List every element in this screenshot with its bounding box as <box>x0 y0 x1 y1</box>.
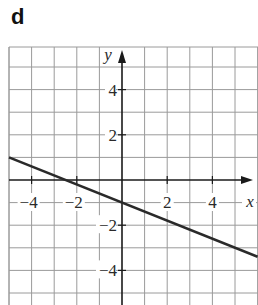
x-tick-label: −2 <box>65 193 83 212</box>
y-tick-label: 2 <box>109 126 118 145</box>
graph-line <box>9 157 258 256</box>
y-axis-arrow-icon <box>118 50 126 63</box>
x-tick-label: −4 <box>20 193 39 212</box>
grid <box>9 47 258 305</box>
y-tick-label: 4 <box>109 81 118 100</box>
x-axis-arrow-icon <box>241 176 253 184</box>
tick-labels: −4−22442−2−4xy <box>18 45 256 280</box>
coordinate-plot: −4−22442−2−4xy <box>0 0 258 305</box>
y-tick-label: −2 <box>99 216 117 235</box>
x-tick-label: 2 <box>163 193 172 212</box>
x-axis-label: x <box>245 192 254 211</box>
graph-series <box>9 157 258 256</box>
y-tick-label: −4 <box>99 261 118 280</box>
y-axis-label: y <box>102 45 112 64</box>
x-tick-label: 4 <box>208 193 217 212</box>
axes <box>9 50 253 305</box>
